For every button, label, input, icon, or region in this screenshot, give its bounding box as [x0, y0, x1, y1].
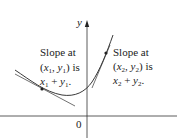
left-annotation-point: (x1, y1) is	[40, 60, 80, 74]
left-annotation-line1: Slope at	[40, 45, 76, 59]
slope-field-diagram: y 0 Slope at (x1, y1) is x1 + y1. Slope …	[0, 0, 177, 138]
tangent-line-2	[92, 45, 110, 88]
left-annotation-expr: x1 + y1.	[40, 74, 71, 88]
right-annotation-expr: x2 + y2.	[113, 73, 144, 87]
origin-label: 0	[76, 117, 82, 131]
y-axis-arrow-icon	[85, 20, 89, 27]
y-axis-label: y	[77, 15, 82, 29]
right-annotation-line1: Slope at	[113, 45, 149, 59]
right-annotation-point: (x2, y2) is	[113, 59, 153, 73]
point-2-marker	[104, 51, 107, 54]
